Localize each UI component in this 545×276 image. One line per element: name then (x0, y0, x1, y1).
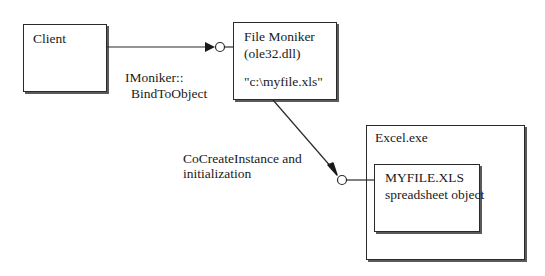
cocreateinstance-label-line2: initialization (183, 166, 251, 182)
bind-to-object-label-line2: BindToObject (131, 86, 207, 102)
bind-to-object-connector (106, 42, 233, 52)
interface-lollipop-icon (216, 43, 225, 52)
cocreateinstance-connector (273, 100, 374, 185)
arrowhead-icon (328, 163, 337, 175)
cocreateinstance-label-line1: CoCreateInstance and (183, 151, 302, 167)
file-moniker-dll: (ole32.dll) (244, 46, 301, 62)
spreadsheet-object-subtitle: spreadsheet object (385, 187, 484, 203)
arrowhead-icon (205, 42, 215, 52)
file-moniker-path: "c:\myfile.xls" (244, 74, 323, 90)
excel-process-label: Excel.exe (375, 130, 428, 146)
file-moniker-title: File Moniker (244, 29, 315, 45)
client-label: Client (33, 31, 66, 47)
bind-to-object-label-line1: IMoniker:: (125, 70, 184, 86)
interface-lollipop-icon (338, 176, 347, 185)
spreadsheet-object-title: MYFILE.XLS (385, 170, 464, 186)
